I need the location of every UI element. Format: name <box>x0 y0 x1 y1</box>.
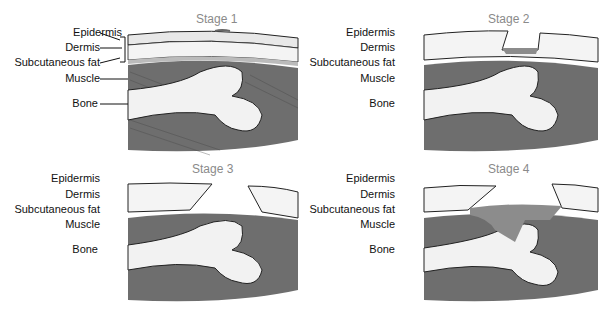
panel-title: Stage 4 <box>488 162 529 176</box>
label-epidermis: Epidermis <box>51 172 100 184</box>
stage-2-illustration <box>300 0 600 160</box>
label-bone: Bone <box>72 97 98 109</box>
label-subcutaneous-fat: Subcutaneous fat <box>309 56 395 68</box>
label-dermis: Dermis <box>360 41 395 53</box>
label-dermis: Dermis <box>360 188 395 200</box>
label-bone: Bone <box>369 97 395 109</box>
panel-stage-2: Stage 2 Epidermis Dermis Subcutaneous fa… <box>300 0 600 160</box>
label-subcutaneous-fat: Subcutaneous fat <box>14 203 100 215</box>
panel-title: Stage 2 <box>488 12 529 26</box>
label-epidermis: Epidermis <box>73 26 122 38</box>
label-subcutaneous-fat: Subcutaneous fat <box>14 56 100 68</box>
label-bone: Bone <box>369 243 395 255</box>
label-muscle: Muscle <box>65 72 100 84</box>
panel-title: Stage 1 <box>196 12 237 26</box>
label-muscle: Muscle <box>360 72 395 84</box>
panel-stage-3: Stage 3 Epidermis Dermis Subcutaneous fa… <box>0 160 300 319</box>
label-muscle: Muscle <box>360 218 395 230</box>
panel-title: Stage 3 <box>192 162 233 176</box>
stage-4-illustration <box>300 160 600 319</box>
panel-stage-1: Stage 1 Epidermis Dermis Subcutaneous fa… <box>0 0 300 160</box>
label-muscle: Muscle <box>65 218 100 230</box>
stage-3-illustration <box>0 160 300 319</box>
label-dermis: Dermis <box>65 188 100 200</box>
panel-stage-4: Stage 4 Epidermis Dermis Subcutaneous fa… <box>300 160 600 319</box>
label-subcutaneous-fat: Subcutaneous fat <box>309 203 395 215</box>
stage-1-illustration <box>0 0 300 160</box>
label-epidermis: Epidermis <box>346 172 395 184</box>
label-dermis: Dermis <box>65 41 100 53</box>
label-epidermis: Epidermis <box>346 26 395 38</box>
label-bone: Bone <box>72 243 98 255</box>
